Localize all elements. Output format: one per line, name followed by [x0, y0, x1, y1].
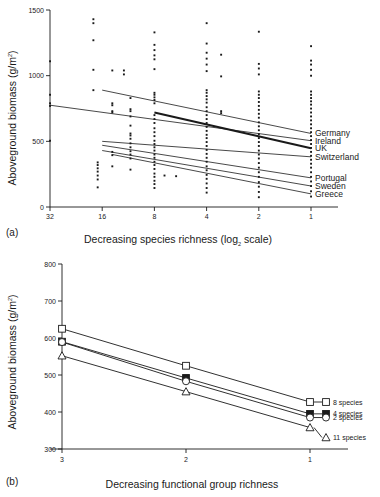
legend-marker-open-triangle	[322, 434, 330, 441]
scatter-point	[154, 102, 156, 104]
marker-open-circle	[59, 339, 66, 346]
panel-b-x-axis-title: Decreasing functional group richness	[106, 478, 279, 490]
scatter-point	[310, 100, 312, 102]
scatter-point	[310, 75, 312, 77]
scatter-point	[130, 133, 132, 135]
panel-a-y-tick: 0	[40, 204, 44, 211]
scatter-point	[258, 97, 260, 99]
scatter-point	[220, 75, 222, 77]
scatter-point	[97, 186, 99, 188]
scatter-point	[92, 18, 94, 20]
scatter-point	[206, 114, 208, 116]
scatter-point	[206, 141, 208, 143]
scatter-point	[154, 173, 156, 175]
scatter-point	[154, 135, 156, 137]
scatter-point	[258, 68, 260, 70]
scatter-point	[97, 167, 99, 169]
scatter-point	[310, 64, 312, 66]
scatter-point	[130, 97, 132, 99]
scatter-point	[310, 91, 312, 93]
scatter-point	[310, 159, 312, 161]
scatter-point	[258, 117, 260, 119]
scatter-point	[175, 175, 177, 177]
panel-b-y-tick: 400	[44, 409, 56, 416]
scatter-point	[206, 178, 208, 180]
scatter-point	[310, 135, 312, 137]
panel-b-legend-label: 11 species	[333, 434, 366, 442]
scatter-point	[220, 54, 222, 56]
scatter-point	[258, 158, 260, 160]
scatter-point	[206, 157, 208, 159]
scatter-point	[206, 106, 208, 108]
regression-line-sweden	[102, 151, 311, 186]
scatter-point	[206, 137, 208, 139]
scatter-point	[206, 92, 208, 94]
scatter-point	[97, 161, 99, 163]
scatter-point	[258, 196, 260, 198]
scatter-point	[206, 64, 208, 66]
panel-a-x-tick: 16	[98, 213, 106, 220]
scatter-point	[154, 94, 156, 96]
panel-a-legend-label: Greece	[315, 189, 343, 199]
panel-a-svg: 05001000150032168421 GermanyIrelandUKSwi…	[0, 0, 380, 252]
scatter-point	[111, 165, 113, 167]
panel-a-x-tick: 8	[152, 213, 156, 220]
scatter-point	[97, 171, 99, 173]
panel-a-tag: (a)	[6, 227, 18, 238]
scatter-point	[206, 187, 208, 189]
scatter-point	[258, 125, 260, 127]
scatter-point	[130, 135, 132, 137]
scatter-point	[154, 58, 156, 60]
scatter-point	[49, 60, 51, 62]
scatter-point	[97, 179, 99, 181]
legend-marker-open-circle	[323, 414, 330, 421]
scatter-point	[111, 104, 113, 106]
panel-b-y-axis-title: Aboveground biomass (g/m2)	[6, 295, 18, 430]
scatter-point	[258, 94, 260, 96]
panel-a-y-tick: 1500	[28, 7, 44, 14]
scatter-point	[154, 180, 156, 182]
panel-b-line-chart: 300400500600700800321 8 species4 species…	[0, 252, 380, 497]
panel-b-y-tick: 300	[44, 446, 56, 453]
panel-a-y-tick: 500	[32, 138, 44, 145]
panel-b-legend-label: 8 species	[333, 399, 363, 407]
figure-container: 05001000150032168421 GermanyIrelandUKSwi…	[0, 0, 380, 497]
scatter-point	[206, 174, 208, 176]
scatter-point	[154, 114, 156, 116]
scatter-point	[206, 182, 208, 184]
scatter-point	[310, 196, 312, 198]
scatter-point	[154, 68, 156, 70]
scatter-point	[206, 118, 208, 120]
panel-b-legend-label: 2 species	[333, 414, 363, 422]
panel-a-x-tick: 2	[257, 213, 261, 220]
scatter-point	[310, 112, 312, 114]
scatter-point	[310, 104, 312, 106]
scatter-point	[154, 54, 156, 56]
scatter-point	[220, 112, 222, 114]
panel-b-series	[58, 325, 322, 437]
scatter-point	[154, 92, 156, 94]
scatter-point	[154, 187, 156, 189]
scatter-point	[310, 97, 312, 99]
scatter-point	[130, 169, 132, 171]
scatter-point	[49, 94, 51, 96]
scatter-point	[258, 167, 260, 169]
scatter-point	[220, 110, 222, 112]
scatter-point	[206, 130, 208, 132]
panel-a-y-axis-title: Aboveground biomass (g/m2)	[6, 51, 18, 186]
scatter-point	[92, 39, 94, 41]
scatter-point	[111, 112, 113, 114]
scatter-point	[206, 95, 208, 97]
scatter-point	[310, 69, 312, 71]
scatter-point	[310, 127, 312, 129]
panel-a-regression-lines	[50, 90, 311, 194]
marker-open-square	[307, 399, 314, 406]
scatter-point	[258, 171, 260, 173]
panel-a-scatter: 05001000150032168421 GermanyIrelandUKSwi…	[0, 0, 380, 252]
scatter-point	[154, 96, 156, 98]
regression-line-uk	[154, 112, 311, 148]
scatter-point	[49, 140, 51, 142]
scatter-point	[130, 138, 132, 140]
scatter-point	[92, 22, 94, 24]
panel-a-legend: GermanyIrelandUKSwitzerlandPortugalSwede…	[315, 128, 359, 198]
